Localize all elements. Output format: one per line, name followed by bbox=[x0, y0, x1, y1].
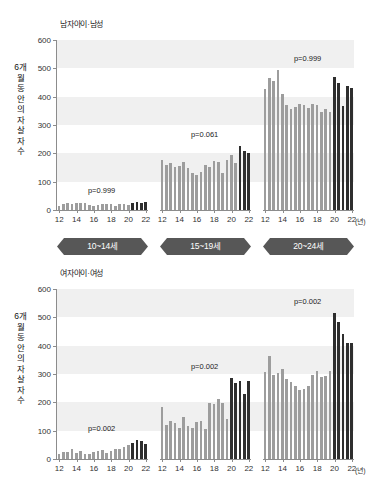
bar bbox=[79, 203, 82, 210]
bar bbox=[200, 172, 203, 210]
y-tick-mark bbox=[53, 97, 56, 98]
y-tick-label: 500 bbox=[27, 313, 51, 322]
bar bbox=[88, 205, 91, 210]
x-tick-label: 18 bbox=[210, 215, 219, 224]
bar bbox=[75, 453, 78, 459]
x-tick-label: 18 bbox=[107, 464, 116, 473]
x-tick-mark bbox=[180, 460, 181, 462]
bar bbox=[131, 203, 134, 210]
x-tick-label: 18 bbox=[107, 215, 116, 224]
x-tick-label: 18 bbox=[313, 464, 322, 473]
bar bbox=[226, 160, 229, 210]
x-tick-mark bbox=[249, 460, 250, 462]
bar bbox=[307, 108, 310, 210]
bar bbox=[114, 206, 117, 210]
chart-female: 여자아이·여성6개월 동안의 자살자 수0100200300400500600p… bbox=[0, 249, 364, 497]
x-tick-mark bbox=[77, 211, 78, 213]
bar bbox=[277, 373, 280, 459]
x-axis-line bbox=[263, 459, 354, 460]
bar bbox=[208, 403, 211, 459]
bar bbox=[213, 404, 216, 459]
bar bbox=[247, 153, 250, 210]
bar bbox=[195, 422, 198, 459]
y-tick-label: 600 bbox=[27, 285, 51, 294]
y-tick-label: 0 bbox=[27, 455, 51, 464]
x-tick-mark bbox=[94, 460, 95, 462]
bar bbox=[268, 356, 271, 459]
bar bbox=[234, 383, 237, 459]
x-tick-label: 14 bbox=[72, 464, 81, 473]
p-value-annotation: p=0.002 bbox=[294, 297, 321, 306]
bar bbox=[127, 205, 130, 210]
bar bbox=[346, 343, 349, 459]
bar bbox=[88, 454, 91, 459]
bar bbox=[187, 426, 190, 459]
bar bbox=[329, 112, 332, 210]
bar bbox=[71, 449, 74, 459]
x-axis-line bbox=[160, 210, 251, 211]
bar bbox=[307, 386, 310, 459]
x-tick-label: 14 bbox=[278, 215, 287, 224]
bar bbox=[114, 449, 117, 459]
x-tick-label: 12 bbox=[158, 464, 167, 473]
y-axis-label: 6개월 동안의 자살자 수 bbox=[14, 62, 27, 157]
x-tick-label: 16 bbox=[192, 464, 201, 473]
x-tick-mark bbox=[214, 211, 215, 213]
bar bbox=[178, 166, 181, 210]
bar bbox=[320, 112, 323, 210]
bar bbox=[213, 161, 216, 210]
bar bbox=[264, 89, 267, 210]
bar bbox=[346, 86, 349, 210]
bar bbox=[350, 88, 353, 210]
y-tick-mark bbox=[53, 68, 56, 69]
bar bbox=[161, 407, 164, 459]
bar bbox=[123, 447, 126, 459]
bar bbox=[66, 203, 69, 210]
bar bbox=[285, 105, 288, 210]
x-axis-line bbox=[57, 459, 148, 460]
x-tick-mark bbox=[300, 460, 301, 462]
x-tick-label: 20 bbox=[330, 464, 339, 473]
bar bbox=[144, 444, 147, 459]
x-tick-mark bbox=[129, 211, 130, 213]
bar bbox=[316, 371, 319, 459]
y-axis-label: 6개월 동안의 자살자 수 bbox=[14, 311, 27, 406]
x-tick-label: 16 bbox=[89, 215, 98, 224]
bar bbox=[182, 417, 185, 459]
bar bbox=[239, 146, 242, 210]
bar bbox=[110, 204, 113, 210]
y-tick-mark bbox=[53, 125, 56, 126]
bar bbox=[337, 322, 340, 459]
x-tick-label: 16 bbox=[295, 215, 304, 224]
x-tick-mark bbox=[335, 460, 336, 462]
x-tick-mark bbox=[59, 460, 60, 462]
bar bbox=[285, 379, 288, 459]
x-tick-mark bbox=[265, 460, 266, 462]
y-tick-label: 0 bbox=[27, 206, 51, 215]
bar bbox=[169, 421, 172, 459]
bar bbox=[239, 381, 242, 459]
x-tick-mark bbox=[197, 211, 198, 213]
bar bbox=[298, 390, 301, 459]
x-tick-label: 20 bbox=[330, 215, 339, 224]
bar bbox=[62, 452, 65, 459]
bar bbox=[208, 167, 211, 210]
bar bbox=[342, 106, 345, 210]
chart-title: 남자아이·남성 bbox=[60, 18, 103, 29]
x-tick-label: 12 bbox=[261, 215, 270, 224]
bar bbox=[294, 107, 297, 210]
bar bbox=[105, 453, 108, 459]
x-axis-line bbox=[263, 210, 354, 211]
p-value-annotation: p=0.999 bbox=[294, 54, 321, 63]
bar bbox=[272, 375, 275, 459]
x-tick-label: 20 bbox=[227, 464, 236, 473]
bar bbox=[71, 204, 74, 210]
bar bbox=[204, 429, 207, 459]
y-tick-mark bbox=[53, 40, 56, 41]
x-axis-line bbox=[57, 210, 148, 211]
bar bbox=[118, 204, 121, 210]
bar bbox=[101, 204, 104, 210]
x-tick-mark bbox=[317, 460, 318, 462]
y-tick-label: 200 bbox=[27, 398, 51, 407]
bar bbox=[84, 203, 87, 210]
